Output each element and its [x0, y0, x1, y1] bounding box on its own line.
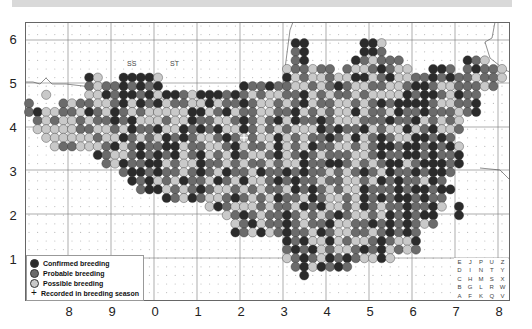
tetrad-letter: X: [497, 275, 508, 283]
tetrad-letter: L: [476, 283, 487, 291]
tetrad-letter: U: [486, 258, 497, 266]
tetrad-letter: T: [486, 266, 497, 274]
tetrad-letter: S: [486, 275, 497, 283]
tetrad-letter: F: [465, 292, 476, 300]
legend-item-recorded: + Recorded in breeding season: [30, 288, 140, 298]
probable-dot-icon: [30, 269, 39, 278]
x-label: 7: [448, 304, 464, 319]
tetrad-letter: R: [486, 283, 497, 291]
tetrad-letter: Y: [497, 266, 508, 274]
tetrad-letter: B: [454, 283, 465, 291]
tetrad-key: EJPUZDINTYCHMSXBGLRWAFKQV: [454, 258, 508, 300]
x-label: 2: [233, 304, 249, 319]
confirmed-dot-icon: [30, 259, 39, 268]
legend-label: Recorded in breeding season: [41, 290, 139, 297]
tetrad-letter: D: [454, 266, 465, 274]
x-label: 3: [276, 304, 292, 319]
y-label-6: 6: [6, 32, 20, 47]
tetrad-letter: H: [465, 275, 476, 283]
tetrad-letter: K: [476, 292, 487, 300]
plus-icon: +: [30, 289, 38, 297]
tetrad-letter: A: [454, 292, 465, 300]
tetrad-letter: M: [476, 275, 487, 283]
legend-item-possible: Possible breeding: [30, 278, 140, 288]
tetrad-letter: J: [465, 258, 476, 266]
x-label: 8: [491, 304, 507, 319]
x-label: 0: [147, 304, 163, 319]
tetrad-letter: W: [497, 283, 508, 291]
tetrad-letter: V: [497, 292, 508, 300]
tetrad-letter: I: [465, 266, 476, 274]
grid-square-label-st: ST: [170, 60, 179, 67]
tetrad-letter: E: [454, 258, 465, 266]
x-label: 9: [104, 304, 120, 319]
x-label: 5: [362, 304, 378, 319]
x-label: 1: [190, 304, 206, 319]
legend-item-probable: Probable breeding: [30, 268, 140, 278]
x-label: 6: [405, 304, 421, 319]
legend-label: Probable breeding: [43, 270, 104, 277]
y-label-5: 5: [6, 76, 20, 91]
legend-label: Possible breeding: [43, 280, 103, 287]
y-label-3: 3: [6, 164, 20, 179]
legend: Confirmed breeding Probable breeding Pos…: [26, 255, 144, 301]
tetrad-letter: N: [476, 266, 487, 274]
x-label: 8: [61, 304, 77, 319]
tetrad-letter: P: [476, 258, 487, 266]
grid-square-label-ss: SS: [127, 60, 136, 67]
tetrad-letter: Q: [486, 292, 497, 300]
y-label-4: 4: [6, 120, 20, 135]
x-label: 4: [319, 304, 335, 319]
tetrad-letter: G: [465, 283, 476, 291]
legend-label: Confirmed breeding: [43, 260, 110, 267]
y-label-1: 1: [6, 252, 20, 267]
tetrad-letter: C: [454, 275, 465, 283]
tetrad-letter: Z: [497, 258, 508, 266]
legend-item-confirmed: Confirmed breeding: [30, 258, 140, 268]
y-label-2: 2: [6, 208, 20, 223]
